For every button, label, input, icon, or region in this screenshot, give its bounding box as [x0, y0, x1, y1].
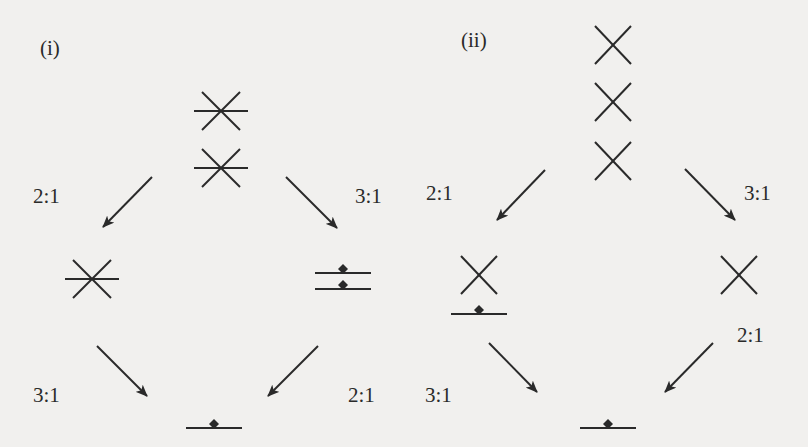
panel-i [65, 92, 371, 429]
arrow-i-2 [97, 346, 147, 396]
panel-label-ii: (ii) [461, 30, 487, 51]
top-cross-1-cross-icon [595, 26, 631, 64]
top-cross-3-cross-icon [595, 142, 631, 180]
panel-label-i: (i) [40, 38, 60, 59]
arrow-ii-3 [665, 343, 713, 392]
ratio-label: 2:1 [426, 183, 453, 204]
bottom-line-dot-line-dot-icon [186, 419, 242, 429]
right-double-line-upper-line-dot-icon [315, 264, 371, 274]
top-asterisk-lower-asterisk-icon [194, 149, 248, 187]
left-cross-cross-icon [461, 256, 497, 294]
arrow-ii-1 [685, 169, 735, 220]
right-double-line-lower-line-dot-icon [315, 280, 371, 290]
degeneration-diagram [0, 0, 808, 447]
top-cross-2-cross-icon [595, 83, 631, 121]
ratio-label: 3:1 [744, 183, 771, 204]
right-cross-cross-icon [721, 256, 757, 294]
ratio-label: 3:1 [425, 385, 452, 406]
arrow-i-1 [286, 177, 337, 228]
left-asterisk-asterisk-icon [65, 260, 119, 298]
arrow-ii-2 [489, 343, 537, 392]
arrow-ii-0 [497, 170, 545, 220]
top-asterisk-upper-asterisk-icon [194, 92, 248, 130]
arrow-i-0 [103, 177, 152, 227]
ratio-label: 2:1 [737, 325, 764, 346]
bottom-line-dot-line-dot-icon [580, 419, 636, 429]
ratio-label: 3:1 [355, 186, 382, 207]
ratio-label: 2:1 [348, 385, 375, 406]
arrow-i-3 [268, 346, 318, 396]
ratio-label: 3:1 [33, 385, 60, 406]
left-line-dot-line-dot-icon [451, 305, 507, 315]
panel-ii [451, 26, 757, 429]
ratio-label: 2:1 [33, 186, 60, 207]
